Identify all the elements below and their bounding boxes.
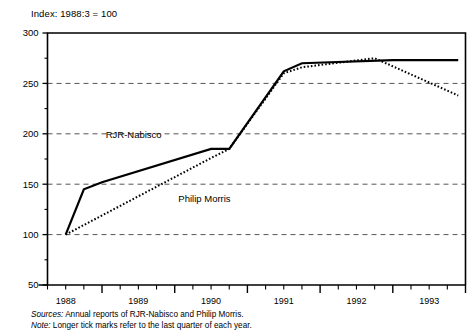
y-tick-label: 100 (23, 229, 39, 240)
x-tick-label: 1992 (346, 296, 366, 306)
line-chart: 5010015020025030019881989199019911992199… (0, 0, 475, 335)
y-tick-label: 50 (28, 279, 39, 290)
sources-line: Sources: Annual reports of RJR-Nabisco a… (31, 310, 252, 321)
y-tick-label: 250 (23, 78, 39, 89)
sources-label: Sources: (31, 310, 63, 319)
x-tick-label: 1989 (128, 296, 148, 306)
y-tick-label: 150 (23, 179, 39, 190)
series-label: Philip Morris (178, 193, 231, 204)
y-tick-label: 200 (23, 128, 39, 139)
note-line: Note: Longer tick marks refer to the las… (31, 321, 252, 332)
figure-root: Index: 1988:3 = 100 50100150200250300198… (0, 0, 475, 335)
note-text: Longer tick marks refer to the last quar… (53, 321, 252, 330)
series-line (66, 58, 459, 234)
sources-text: Annual reports of RJR-Nabisco and Philip… (65, 310, 243, 319)
x-tick-label: 1990 (201, 296, 221, 306)
y-tick-label: 300 (23, 27, 39, 38)
series-line (66, 60, 459, 234)
x-tick-label: 1991 (274, 296, 294, 306)
x-tick-label: 1993 (419, 296, 439, 306)
x-tick-label: 1988 (56, 296, 76, 306)
note-label: Note: (31, 321, 51, 330)
series-label: RJR-Nabisco (106, 129, 162, 140)
figure-footnotes: Sources: Annual reports of RJR-Nabisco a… (31, 310, 252, 331)
